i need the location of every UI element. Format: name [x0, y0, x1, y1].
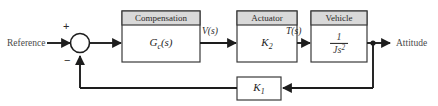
- feedback-gain-block-body: K1: [253, 82, 264, 95]
- vehicle-fraction-denominator: Js2: [330, 45, 348, 55]
- compensation-block-title: Compensation: [135, 14, 187, 23]
- compensation-transfer-base: G: [149, 36, 157, 48]
- signal-label-t-of-s: T(s): [286, 27, 301, 37]
- vehicle-block-body: 1 Js2: [330, 32, 348, 56]
- compensation-transfer-tail: (s): [161, 36, 173, 48]
- attitude-output-label: Attitude: [396, 39, 427, 49]
- actuator-block-body: K2: [261, 37, 272, 50]
- signal-label-v-of-s: V(s): [202, 27, 218, 37]
- summing-junction-plus-sign: +: [63, 21, 69, 32]
- vehicle-fraction-numerator: 1: [330, 32, 348, 42]
- vehicle-block-title: Vehicle: [326, 14, 353, 23]
- diagram-wires: [0, 0, 438, 106]
- actuator-gain-subscript: 2: [269, 42, 273, 51]
- feedback-gain-subscript: 1: [261, 87, 265, 96]
- summing-junction-minus-sign: −: [64, 55, 70, 66]
- actuator-block-title: Actuator: [251, 14, 283, 23]
- block-diagram: Reference + − Compensation Gc(s) V(s) Ac…: [0, 0, 438, 106]
- vehicle-transfer-fraction: 1 Js2: [330, 32, 348, 55]
- compensation-block-body: Gc(s): [149, 37, 172, 50]
- summing-junction-circle: [71, 34, 90, 53]
- vehicle-denominator-exponent: 2: [341, 44, 345, 52]
- reference-input-label: Reference: [7, 39, 46, 49]
